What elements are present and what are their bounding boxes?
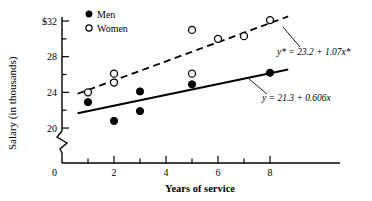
annotation-leaders xyxy=(249,27,300,94)
x-tick-label: 8 xyxy=(268,167,273,178)
y-tick-label: 24 xyxy=(47,87,57,98)
data-point-men xyxy=(84,99,91,106)
scatter-plot: Salary (in thousands) $322824200 2468 y*… xyxy=(0,0,372,201)
x-axis-ticks xyxy=(88,156,270,163)
legend-marker-women xyxy=(86,25,92,31)
x-axis-title: Years of service xyxy=(165,183,235,194)
y-axis-ticks xyxy=(62,21,69,128)
data-point-men xyxy=(266,69,273,76)
y-tick-label: 20 xyxy=(47,123,57,134)
legend-marker-men xyxy=(86,11,92,17)
y-tick-label: 28 xyxy=(47,51,57,62)
data-point-women xyxy=(267,17,274,24)
axis-lines xyxy=(57,17,340,163)
y-tick-label: $32 xyxy=(42,16,57,27)
data-point-women xyxy=(189,26,196,33)
chart-figure: Salary (in thousands) $322824200 2468 y*… xyxy=(0,0,372,201)
y-axis-tick-labels: $322824200 xyxy=(42,16,57,178)
x-tick-label: 6 xyxy=(216,167,221,178)
data-point-men xyxy=(110,117,117,124)
legend-label-women: Women xyxy=(97,23,128,34)
data-point-women xyxy=(189,70,196,77)
data-point-men xyxy=(188,81,195,88)
fit-line-men xyxy=(78,69,289,113)
data-point-women xyxy=(241,33,248,40)
equation-women: y* = 23.2 + 1.07x* xyxy=(276,47,351,57)
x-tick-label: 4 xyxy=(164,167,169,178)
data-point-women xyxy=(85,89,92,96)
x-axis-tick-labels: 2468 xyxy=(112,167,273,178)
data-point-women xyxy=(111,79,118,86)
legend: Men Women xyxy=(86,9,128,34)
x-tick-label: 2 xyxy=(112,167,117,178)
data-point-men xyxy=(136,107,143,114)
data-point-women xyxy=(215,35,222,42)
data-point-men xyxy=(136,88,143,95)
legend-label-men: Men xyxy=(97,9,115,20)
equation-men: y = 21.3 + 0.606x xyxy=(261,93,332,103)
y-tick-label-zero: 0 xyxy=(52,167,57,178)
data-point-women xyxy=(111,70,118,77)
y-axis-title: Salary (in thousands) xyxy=(6,56,19,150)
